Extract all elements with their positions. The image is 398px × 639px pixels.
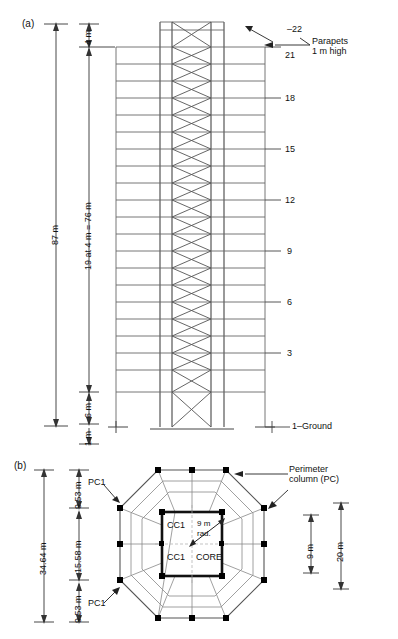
dim-label-plan-width: 34.64 m — [38, 542, 48, 575]
dim-label-plan-depth: 20 m — [335, 542, 345, 562]
label-pc1-bottom: PC1 — [88, 598, 106, 608]
label-core-radius: 9 m rad. — [197, 519, 211, 539]
dim-label-foundation: 1 m — [83, 431, 93, 446]
label-ground: 1–Ground — [292, 421, 332, 431]
label-level-6: 6 — [287, 297, 292, 307]
label-pc1-top: PC1 — [88, 477, 106, 487]
base-supports — [108, 421, 275, 433]
label-level-12: 12 — [285, 195, 295, 205]
dim-label-band-top: 9.53 m — [73, 481, 83, 509]
floor-beams — [116, 22, 265, 392]
label-level-21: 21 — [285, 50, 295, 60]
dim-label-band-middle: 15.58 m — [73, 540, 83, 573]
dim-label-top-storey: 4 m — [83, 30, 93, 45]
dim-label-core-depth: 9 m — [305, 544, 315, 559]
perimeter-column-leader — [234, 471, 288, 509]
label-roof-level: –22 — [287, 24, 302, 34]
label-cc1-upper: CC1 — [167, 520, 185, 530]
label-level-18: 18 — [285, 93, 295, 103]
label-cc1-lower: CC1 — [167, 552, 185, 562]
core-bracing — [172, 22, 211, 427]
label-level-15: 15 — [285, 144, 295, 154]
label-core: CORE — [196, 552, 222, 562]
label-level-9: 9 — [287, 246, 292, 256]
dim-label-ground-storey: 6 m — [83, 403, 93, 418]
core-chords — [160, 22, 224, 427]
dim-label-band-bottom: 9.53 m — [73, 595, 83, 623]
panel-label-b: (b) — [14, 460, 26, 471]
panel-label-a: (a) — [22, 18, 34, 29]
dim-label-typical-stack: 19 at 4 m = 76 m — [83, 202, 93, 270]
dim-label-overall-height: 87 m — [50, 225, 60, 245]
label-perimeter-column: Perimeter column (PC) — [289, 464, 339, 484]
label-parapets: Parapets 1 m high — [312, 36, 348, 56]
level-ticks — [265, 47, 290, 433]
label-level-3: 3 — [287, 348, 292, 358]
